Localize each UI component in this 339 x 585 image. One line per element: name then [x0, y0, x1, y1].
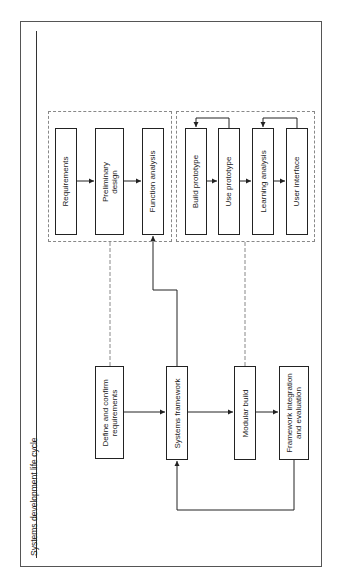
function-analysis-box: Function analysis [142, 128, 164, 235]
define-confirm-requirements-box: Define and confirm requirements [95, 366, 124, 459]
build-prototype-label: Build prototype [192, 155, 201, 208]
modular-build-label: Modular build [241, 389, 250, 437]
use-prototype-label: Use prototype [225, 157, 234, 207]
framework-integration-label: Framework integration and evaluation [285, 373, 303, 453]
define-confirm-requirements-label: Define and confirm requirements [101, 379, 119, 446]
systems-framework-box: Systems framework [166, 366, 188, 460]
preliminary-design-label: Preliminary design [101, 161, 119, 201]
preliminary-design-box: Preliminary design [95, 128, 124, 235]
use-prototype-box: Use prototype [218, 128, 240, 235]
function-analysis-label: Function analysis [149, 151, 158, 213]
connector-lines [0, 0, 339, 585]
user-interface-box: User interface [286, 128, 308, 235]
preliminary-design-line-1: Preliminary [101, 161, 110, 201]
framework-integration-line-2: and evaluation [294, 387, 303, 439]
user-interface-label: User interface [293, 157, 302, 207]
requirements-box: Requirements [55, 128, 77, 235]
define-line-2: requirements [110, 389, 119, 436]
learning-analysis-label: Learning analysis [259, 150, 268, 212]
requirements-label: Requirements [62, 157, 71, 207]
preliminary-design-line-2: design [110, 170, 119, 194]
framework-integration-line-1: Framework integration [285, 373, 294, 453]
modular-build-box: Modular build [234, 366, 256, 460]
learning-analysis-box: Learning analysis [252, 128, 274, 235]
build-prototype-box: Build prototype [185, 128, 207, 235]
framework-integration-box: Framework integration and evaluation [279, 366, 309, 460]
systems-framework-label: Systems framework [173, 378, 182, 448]
define-line-1: Define and confirm [101, 379, 110, 446]
